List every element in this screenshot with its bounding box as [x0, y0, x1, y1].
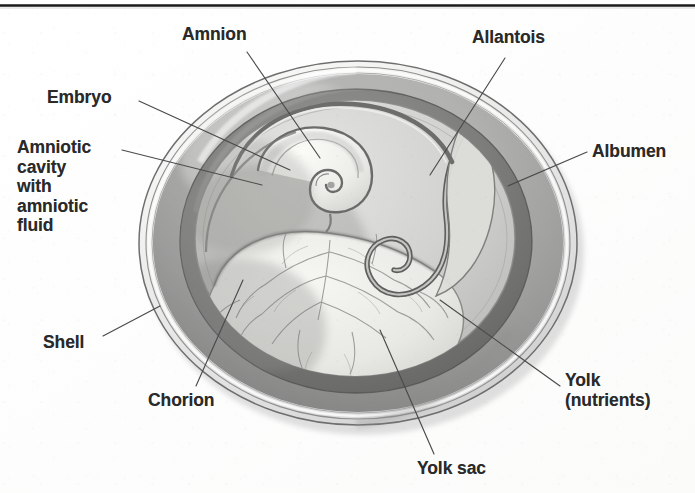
label-shell: Shell: [43, 333, 84, 353]
label-amnion: Amnion: [182, 25, 247, 45]
amniotic-egg-diagram: [0, 0, 695, 493]
label-chorion: Chorion: [148, 391, 214, 411]
embryo-eye: [327, 182, 334, 188]
label-yolk-nutrients: Yolk (nutrients): [565, 371, 650, 410]
label-allantois: Allantois: [472, 28, 545, 48]
label-yolk-sac: Yolk sac: [417, 459, 486, 479]
label-albumen: Albumen: [592, 142, 666, 162]
label-amniotic-cavity: Amniotic cavity with amniotic fluid: [17, 138, 91, 236]
label-embryo: Embryo: [47, 88, 112, 108]
